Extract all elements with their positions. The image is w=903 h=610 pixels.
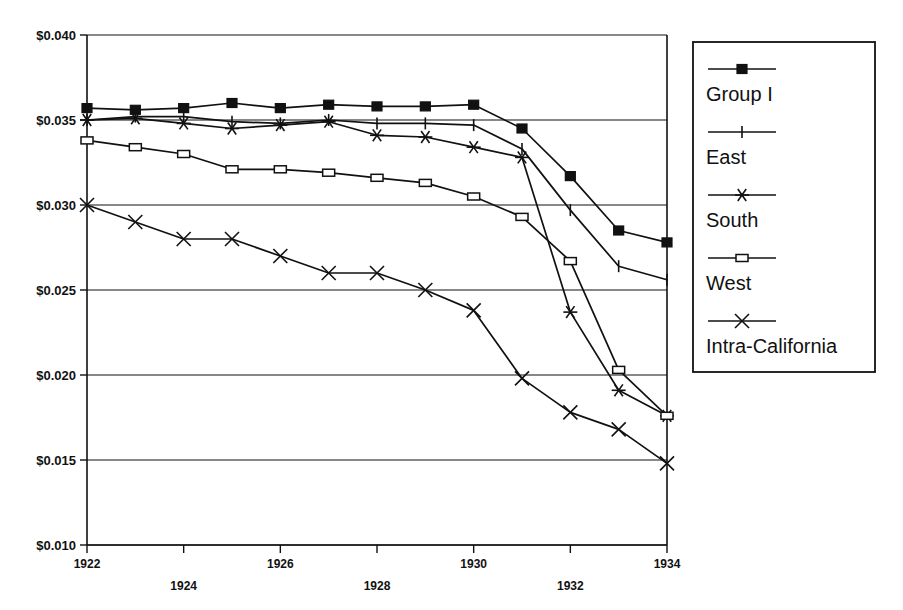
datapoint-group-i [372, 102, 382, 111]
datapoint-south [467, 141, 481, 153]
datapoint-west [661, 412, 673, 419]
line-chart: $0.010$0.015$0.020$0.025$0.030$0.035$0.0… [0, 0, 903, 610]
datapoint-intra-california [128, 215, 142, 229]
legend-label-east: East [706, 146, 746, 168]
datapoint-west [81, 137, 93, 144]
datapoint-group-i [275, 104, 285, 113]
datapoint-west [371, 174, 383, 181]
x-tick-label: 1930 [460, 557, 487, 571]
datapoint-south [563, 306, 577, 318]
datapoint-intra-california [563, 405, 577, 419]
legend-label-group-i: Group I [706, 83, 773, 105]
datapoint-intra-california [467, 303, 481, 317]
y-tick-label: $0.025 [36, 283, 76, 298]
x-axis-ticks [87, 545, 667, 553]
datapoint-group-i [82, 104, 92, 113]
series-markers-group [80, 99, 674, 471]
y-tick-label: $0.010 [36, 538, 76, 553]
datapoint-group-i [517, 124, 527, 133]
chart-page: $0.010$0.015$0.020$0.025$0.030$0.035$0.0… [0, 0, 903, 610]
y-tick-label: $0.040 [36, 28, 76, 43]
x-tick-label: 1924 [170, 579, 197, 593]
datapoint-west [323, 169, 335, 176]
datapoint-intra-california [612, 422, 626, 436]
datapoint-west [564, 258, 576, 265]
y-tick-label: $0.015 [36, 453, 76, 468]
x-tick-label: 1922 [74, 557, 101, 571]
y-tick-label: $0.030 [36, 198, 76, 213]
x-tick-label: 1928 [364, 579, 391, 593]
legend-label-intra-california: Intra-California [706, 335, 838, 357]
datapoint-group-i [469, 100, 479, 109]
legend-label-south: South [706, 209, 758, 231]
datapoint-group-i [227, 99, 237, 108]
datapoint-west [613, 366, 625, 373]
datapoint-west [419, 179, 431, 186]
series-line-intra-california [87, 205, 667, 463]
datapoint-west [274, 166, 286, 173]
datapoint-south [418, 131, 432, 143]
datapoint-group-i [662, 238, 672, 247]
datapoint-west [129, 144, 141, 151]
x-tick-label: 1934 [654, 557, 681, 571]
datapoint-south [612, 384, 626, 396]
series-line-south [87, 118, 667, 416]
legend-label-west: West [706, 272, 752, 294]
y-axis-tick-labels: $0.010$0.015$0.020$0.025$0.030$0.035$0.0… [36, 28, 76, 553]
datapoint-west [516, 213, 528, 220]
datapoint-group-i [614, 226, 624, 235]
datapoint-group-i [420, 102, 430, 111]
series-lines-group [87, 103, 667, 463]
datapoint-south [370, 129, 384, 141]
legend-marker-west [736, 255, 748, 262]
datapoint-group-i [565, 172, 575, 181]
datapoint-intra-california [515, 371, 529, 385]
legend-marker-group-i [737, 65, 747, 74]
series-line-east [87, 117, 667, 280]
datapoint-intra-california [273, 249, 287, 263]
x-axis-tick-labels: 1922192419261928193019321934 [74, 557, 681, 593]
y-tick-label: $0.035 [36, 113, 76, 128]
datapoint-west [226, 166, 238, 173]
y-tick-label: $0.020 [36, 368, 76, 383]
datapoint-west [468, 193, 480, 200]
datapoint-group-i [324, 100, 334, 109]
x-tick-label: 1932 [557, 579, 584, 593]
datapoint-west [178, 151, 190, 158]
legend: Group IEastSouthWestIntra-California [693, 42, 875, 372]
x-tick-label: 1926 [267, 557, 294, 571]
